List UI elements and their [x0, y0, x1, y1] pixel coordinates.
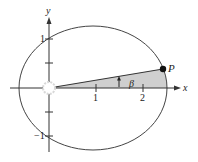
y-axis-arrow-icon — [47, 17, 52, 24]
ellipse-diagram: P β x y 1 2 1 −1 — [0, 0, 198, 162]
y-tick-label-1: 1 — [40, 33, 45, 44]
y-axis-label: y — [45, 5, 51, 16]
point-p-label: P — [167, 62, 175, 74]
x-tick-label-1: 1 — [93, 92, 98, 103]
x-axis-arrow-icon — [174, 86, 181, 91]
angle-beta-label: β — [128, 78, 134, 89]
y-tick-label-neg-1: −1 — [34, 130, 45, 141]
x-axis-label: x — [182, 82, 188, 93]
focus-sun-icon — [43, 82, 55, 94]
x-tick-label-2: 2 — [140, 92, 145, 103]
point-p — [160, 66, 166, 72]
